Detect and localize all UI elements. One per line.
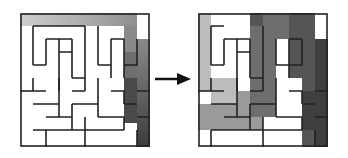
right-arrow-icon [155,72,195,86]
right-gradient-column [137,39,150,147]
right-gradient-column [124,26,137,52]
top-gradient-band [20,13,137,26]
region-white-bottomleft [198,130,211,147]
maze-after [198,13,328,147]
region-white-topright [315,13,328,39]
maze-before [20,13,150,147]
right-dark-block [124,78,137,123]
